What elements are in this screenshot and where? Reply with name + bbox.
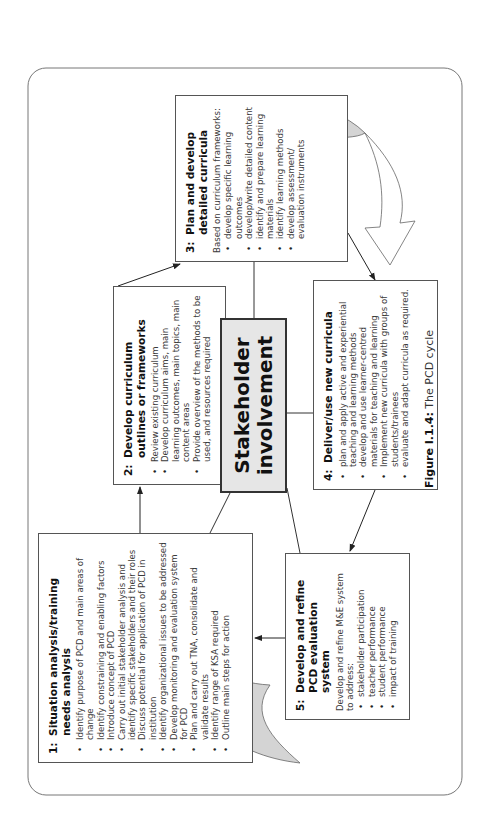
list-item: develop and use learner-centred material… [358,289,379,481]
list-item: Identify purpose of PCD and main areas o… [75,542,96,754]
list-item: Identify range of KSA required [210,542,220,754]
box-1-number: 1: [47,736,72,754]
list-item: Identify organizational issues to be add… [158,542,168,754]
box-situation-analysis: 1: Situation analysis/training needs ana… [38,533,253,763]
box-5-intro: Develop and refine M&E system to address… [335,562,356,711]
box-3-intro: Based on curriculum frameworks: [212,104,222,253]
list-item: Review existing curriculum [150,295,160,476]
figure-caption: Figure I.1.4: The PCD cycle [423,330,436,488]
box-4-title: 4: Deliver/use new curricula [322,289,335,481]
list-item: Introduce concept of PCD [106,542,116,754]
arrow-3-to-4 [348,233,375,280]
list-item: evaluate and adapt curricula as required… [400,289,410,481]
list-item: Carry out initial stakeholder analysis a… [117,542,138,754]
list-item: identify and prepare learning materials [255,104,276,253]
box-1-list: Identify purpose of PCD and main areas o… [75,542,231,754]
list-item: teacher performance [367,562,377,711]
arrow-4-to-5 [350,490,375,551]
box-5-title: 5: Develop and refine PCD evaluation sys… [294,562,332,711]
list-item: Develop monitoring and evaluation system… [169,542,190,754]
box-1-title: 1: Situation analysis/training needs ana… [47,542,72,754]
caption-label: Figure I.1.4: [423,412,436,488]
center-link-5 [287,488,300,553]
list-item: develop assessment/ evaluation instrumen… [286,104,307,253]
box-1-heading: Situation analysis/training needs analys… [47,542,72,736]
box-4-list: plan and apply active and experiential t… [338,289,411,481]
box-5-heading: Develop and refine PCD evaluation system [294,562,332,693]
list-item: Develop curriculum aims, main learning o… [160,295,191,476]
list-item: plan and apply active and experiential t… [338,289,359,481]
list-item: identify learning methods [275,104,285,253]
caption-text: The PCD cycle [423,330,436,412]
list-item: Provide overview of the methods to be us… [192,295,213,476]
list-item: develop specific learning outcomes [223,104,244,253]
list-item: Discuss potential for application of PCD… [137,542,158,754]
box-evaluation-system: 5: Develop and refine PCD evaluation sys… [285,553,410,720]
stakeholder-involvement-box: Stakeholder involvement [220,318,287,493]
list-item: Implement new curricula with groups of s… [379,289,400,481]
box-3-heading: Plan and develop detailed curricula [184,104,209,235]
box-4-number: 4: [322,463,335,481]
center-link-1 [210,493,230,533]
list-item: stakeholder participation [356,562,366,711]
list-item: Plan and carry out TNA, consolidate and … [189,542,210,754]
pcd-cycle-diagram: 1: Situation analysis/training needs ana… [0,0,495,833]
box-detailed-curricula: 3: Plan and develop detailed curricula B… [175,95,348,262]
center-line-2: involvement [254,336,277,476]
box-curriculum-outlines: 2: Develop curriculum outlines or framew… [113,286,226,485]
list-item: Identify constraining and enabling facto… [96,542,106,754]
box-3-list: develop specific learning outcomes devel… [223,104,306,253]
box-2-number: 2: [122,458,147,476]
box-3-number: 3: [184,235,209,253]
box-deliver-curricula: 4: Deliver/use new curricula plan and ap… [313,280,438,490]
box-2-heading: Develop curriculum outlines or framework… [122,295,147,458]
list-item: develop/write detailed content [244,104,254,253]
box-4-heading: Deliver/use new curricula [322,289,335,463]
box-5-number: 5: [294,693,332,711]
arrow-2-to-3 [118,264,180,286]
center-line-1: Stakeholder [231,336,254,476]
list-item: Outline main steps for action [221,542,231,754]
list-item: student performance [377,562,387,711]
list-item: impact of training [388,562,398,711]
box-2-title: 2: Develop curriculum outlines or framew… [122,295,147,476]
box-2-list: Review existing curriculum Develop curri… [150,295,212,476]
box-5-list: stakeholder participation teacher perfor… [356,562,398,711]
box-3-title: 3: Plan and develop detailed curricula [184,104,209,253]
